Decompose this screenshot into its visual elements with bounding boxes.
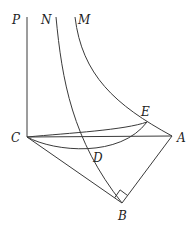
label-e: E [140, 105, 150, 119]
curve-n [56, 17, 122, 203]
label-m: M [77, 13, 91, 27]
geometry-diagram: P N M C A E D B [0, 0, 193, 229]
segment-ca [27, 136, 172, 137]
segment-cb [27, 137, 122, 203]
label-n: N [40, 13, 52, 27]
label-a: A [176, 131, 186, 145]
curve-m [75, 17, 172, 136]
label-b: B [117, 209, 127, 223]
label-c: C [11, 131, 20, 145]
segment-ab [122, 136, 172, 203]
arc-ce-upper [27, 122, 147, 137]
label-d: D [92, 151, 103, 165]
label-p: P [11, 13, 21, 27]
